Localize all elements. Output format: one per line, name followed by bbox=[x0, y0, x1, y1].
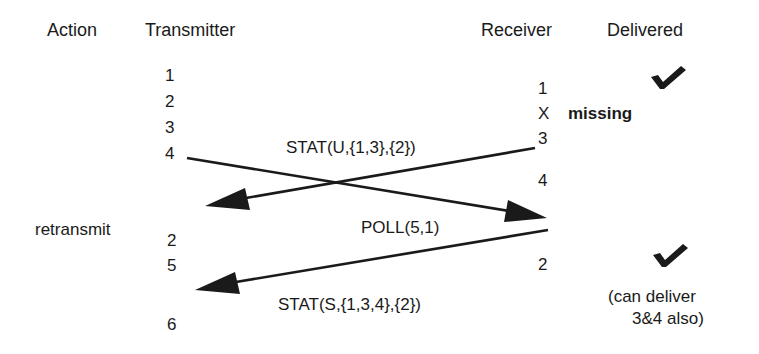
message-arrows bbox=[0, 0, 759, 354]
arrow-stat-u bbox=[205, 148, 535, 210]
sequence-diagram: Action Transmitter Receiver Delivered 1 … bbox=[0, 0, 759, 354]
arrow-stat-s bbox=[195, 230, 548, 294]
